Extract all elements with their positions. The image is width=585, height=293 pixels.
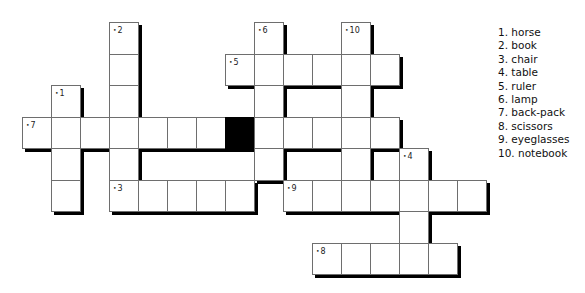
clue-number: 4 bbox=[403, 151, 413, 161]
crossword-cell[interactable] bbox=[109, 85, 139, 118]
crossword-cell[interactable] bbox=[80, 117, 110, 150]
word-list-item: 2. book bbox=[498, 39, 569, 52]
crossword-cell[interactable] bbox=[254, 54, 284, 87]
crossword-cell[interactable] bbox=[51, 117, 81, 150]
blocked-cell bbox=[225, 117, 255, 150]
crossword-cell[interactable] bbox=[51, 148, 81, 181]
crossword-cell[interactable] bbox=[399, 211, 429, 244]
crossword-cell[interactable] bbox=[312, 54, 342, 87]
crossword-cell[interactable] bbox=[370, 54, 400, 87]
crossword-cell[interactable] bbox=[341, 117, 371, 150]
clue-number: 3 bbox=[113, 183, 123, 193]
crossword-cell[interactable] bbox=[341, 85, 371, 118]
crossword-cell[interactable] bbox=[370, 117, 400, 150]
word-list-item: 10. notebook bbox=[498, 147, 569, 160]
clue-number: 2 bbox=[113, 25, 123, 35]
crossword-cell[interactable] bbox=[167, 180, 197, 213]
crossword-cell[interactable] bbox=[399, 243, 429, 276]
crossword-cell[interactable] bbox=[51, 180, 81, 213]
crossword-cell[interactable] bbox=[370, 243, 400, 276]
crossword-cell[interactable]: 3 bbox=[109, 180, 139, 213]
word-list: 1. horse 2. book 3. chair 4. table 5. ru… bbox=[498, 26, 569, 160]
word-list-item: 1. horse bbox=[498, 26, 569, 39]
crossword-cell[interactable]: 4 bbox=[399, 148, 429, 181]
crossword-cell[interactable] bbox=[312, 180, 342, 213]
clue-number: 8 bbox=[316, 246, 326, 256]
crossword-cell[interactable] bbox=[196, 180, 226, 213]
word-list-item: 6. lamp bbox=[498, 93, 569, 106]
crossword-cell[interactable]: 1 bbox=[51, 85, 81, 118]
crossword-cell[interactable] bbox=[341, 54, 371, 87]
word-list-item: 4. table bbox=[498, 66, 569, 79]
crossword-cell[interactable] bbox=[109, 54, 139, 87]
crossword-cell[interactable] bbox=[428, 180, 458, 213]
crossword-cell[interactable] bbox=[370, 180, 400, 213]
crossword-grid: 26105174398 bbox=[0, 0, 490, 293]
crossword-cell[interactable] bbox=[341, 243, 371, 276]
clue-number: 10 bbox=[345, 25, 360, 35]
crossword-cell[interactable]: 6 bbox=[254, 22, 284, 55]
crossword-cell[interactable] bbox=[109, 148, 139, 181]
word-list-item: 5. ruler bbox=[498, 80, 569, 93]
crossword-cell[interactable] bbox=[254, 85, 284, 118]
crossword-cell[interactable] bbox=[196, 117, 226, 150]
crossword-cell[interactable] bbox=[399, 180, 429, 213]
crossword-cell[interactable] bbox=[254, 148, 284, 181]
clue-number: 6 bbox=[258, 25, 268, 35]
crossword-cell[interactable] bbox=[283, 54, 313, 87]
crossword-cell[interactable] bbox=[312, 117, 342, 150]
word-list-item: 8. scissors bbox=[498, 120, 569, 133]
word-list-item: 7. back-pack bbox=[498, 106, 569, 119]
clue-number: 9 bbox=[287, 183, 297, 193]
crossword-cell[interactable] bbox=[254, 117, 284, 150]
crossword-cell[interactable]: 2 bbox=[109, 22, 139, 55]
crossword-cell[interactable] bbox=[457, 180, 487, 213]
crossword-cell[interactable] bbox=[283, 117, 313, 150]
crossword-cell[interactable] bbox=[109, 117, 139, 150]
crossword-cell[interactable] bbox=[167, 117, 197, 150]
crossword-cell[interactable] bbox=[341, 148, 371, 181]
crossword-cell[interactable]: 5 bbox=[225, 54, 255, 87]
crossword-cell[interactable] bbox=[225, 180, 255, 213]
word-list-item: 3. chair bbox=[498, 53, 569, 66]
crossword-cell[interactable] bbox=[428, 243, 458, 276]
clue-number: 5 bbox=[229, 57, 239, 67]
crossword-cell[interactable]: 9 bbox=[283, 180, 313, 213]
crossword-cell[interactable]: 8 bbox=[312, 243, 342, 276]
clue-number: 7 bbox=[26, 120, 36, 130]
crossword-cell[interactable] bbox=[138, 180, 168, 213]
word-list-item: 9. eyeglasses bbox=[498, 133, 569, 146]
crossword-cell[interactable] bbox=[341, 180, 371, 213]
clue-number: 1 bbox=[55, 88, 65, 98]
crossword-cell[interactable]: 10 bbox=[341, 22, 371, 55]
crossword-cell[interactable] bbox=[138, 117, 168, 150]
crossword-cell[interactable]: 7 bbox=[22, 117, 52, 150]
